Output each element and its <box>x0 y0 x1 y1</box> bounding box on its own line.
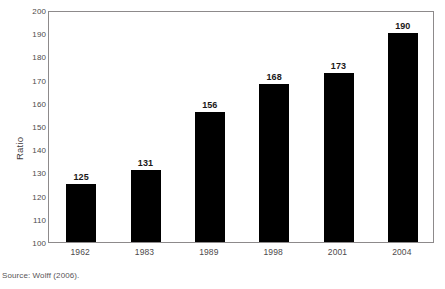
source-note: Source: Wolff (2006). <box>2 271 79 280</box>
y-axis-tick-120: 120 <box>20 192 46 201</box>
y-axis-tick-130: 130 <box>20 169 46 178</box>
bar-2004 <box>388 33 418 242</box>
y-axis-tick-190: 190 <box>20 30 46 39</box>
bar-1998 <box>259 84 289 242</box>
bar-value-label-2004: 190 <box>379 21 427 31</box>
plot-area: 125131156168173190 <box>48 11 434 243</box>
bar-1962 <box>66 184 96 242</box>
y-axis-tick-180: 180 <box>20 53 46 62</box>
bar-1983 <box>131 170 161 242</box>
y-axis-tick-100: 100 <box>20 239 46 248</box>
x-axis-tick-labels: 196219831989199820012004 <box>48 247 434 263</box>
bar-value-label-1962: 125 <box>57 172 105 182</box>
bar-value-label-1989: 156 <box>186 100 234 110</box>
x-axis-tick-1962: 1962 <box>50 247 110 257</box>
y-axis-tick-170: 170 <box>20 76 46 85</box>
y-axis-tick-200: 200 <box>20 7 46 16</box>
bar-2001 <box>324 73 354 242</box>
x-axis-tick-1998: 1998 <box>243 247 303 257</box>
bars-layer: 125131156168173190 <box>49 12 433 242</box>
x-axis-tick-2004: 2004 <box>372 247 432 257</box>
x-axis-tick-1983: 1983 <box>115 247 175 257</box>
y-axis-tick-140: 140 <box>20 146 46 155</box>
bar-1989 <box>195 112 225 242</box>
y-axis-title: Ratio <box>0 96 18 166</box>
x-axis-tick-2001: 2001 <box>308 247 368 257</box>
bar-chart-figure: Ratio 100110120130140150160170180190200 … <box>0 0 445 289</box>
y-axis-tick-labels: 100110120130140150160170180190200 <box>20 0 46 260</box>
bar-value-label-2001: 173 <box>315 61 363 71</box>
y-axis-tick-160: 160 <box>20 99 46 108</box>
bar-value-label-1983: 131 <box>122 158 170 168</box>
y-axis-tick-110: 110 <box>20 215 46 224</box>
y-axis-tick-150: 150 <box>20 123 46 132</box>
x-axis-tick-1989: 1989 <box>179 247 239 257</box>
bar-value-label-1998: 168 <box>250 72 298 82</box>
